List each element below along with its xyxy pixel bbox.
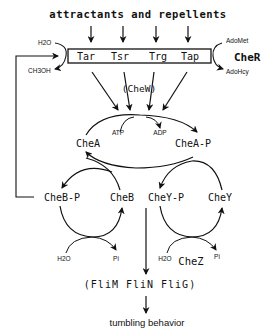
cheb-dephosphorylation-arc [60, 206, 122, 237]
chey-water-label: H2O [158, 255, 171, 262]
chey-dephosphorylation-arc [160, 206, 222, 237]
cheb-label: CheB [110, 192, 134, 203]
cheb-pi-label: Pi [113, 255, 119, 262]
cher-label: CheR [234, 51, 261, 64]
chea-p-label: CheA-P [175, 138, 211, 149]
cheb-water-label: H2O [57, 255, 70, 262]
atp-label: ATP [112, 129, 124, 136]
adomet-label: AdoMet [226, 37, 249, 44]
left-methanol-label: CH3OH [28, 67, 51, 74]
methylation-curve [213, 43, 223, 69]
chea-label: CheA [76, 138, 100, 149]
cheyp-label: CheY-P [148, 192, 184, 203]
receptor-tap: Tap [181, 51, 199, 62]
stimulus-label: attractants and repellents [49, 8, 226, 20]
chebp-label: CheB-P [44, 192, 80, 203]
stimulus-arrows [91, 26, 188, 42]
chemotaxis-pathway-diagram: attractants and repellents Tar Tsr Trg T… [0, 0, 273, 335]
motor-switch-label: (FliM FliN FliG) [84, 279, 196, 290]
chez-label: CheZ [178, 255, 203, 267]
chey-label: CheY [208, 192, 232, 203]
adp-label: ADP [153, 129, 166, 136]
chea-phosphorylation-arc [86, 115, 197, 135]
cheb-feedback-arrow [16, 56, 58, 197]
diagram-canvas: attractants and repellents Tar Tsr Trg T… [0, 0, 273, 335]
chea-to-chey-arrow [160, 161, 192, 188]
behavior-label: tumbling behavior [110, 317, 185, 328]
chea-to-cheb-arrow [62, 168, 112, 188]
receptor-labels: Tar Tsr Trg Tap [77, 51, 199, 62]
receptor-trg: Trg [149, 51, 167, 62]
receptor-tar: Tar [77, 51, 95, 62]
chey-pi-label: Pi [214, 253, 220, 260]
receptor-tsr: Tsr [111, 51, 129, 62]
left-water-label: H2O [38, 39, 51, 46]
adohcy-label: AdoHcy [226, 68, 250, 76]
